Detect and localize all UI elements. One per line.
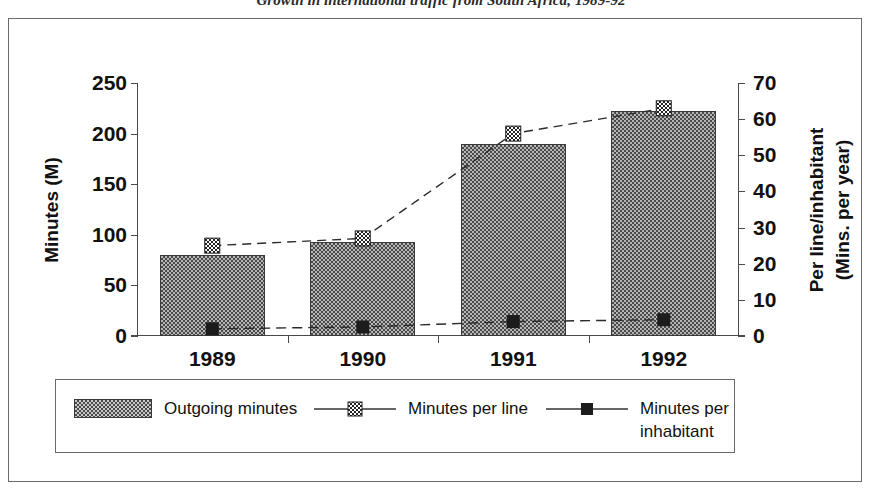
data-point-marker (506, 126, 521, 141)
right-axis-title-line2: (Mins. per year) (832, 139, 854, 279)
right-tick-label: 30 (753, 217, 813, 238)
data-point-marker (355, 231, 370, 246)
left-tick-label: 200 (37, 123, 127, 144)
left-tick-label: 50 (37, 274, 127, 295)
right-tick-mark (738, 191, 745, 192)
data-point-marker (656, 101, 671, 116)
legend-label: Outgoing minutes (164, 398, 297, 421)
data-point-marker (206, 322, 219, 335)
left-tick-label: 100 (37, 224, 127, 245)
right-tick-mark (738, 228, 745, 229)
right-tick-mark (738, 119, 745, 120)
data-point-marker (507, 315, 520, 328)
right-tick-mark (738, 155, 745, 156)
right-tick-label: 60 (753, 108, 813, 129)
legend-item-outgoing-minutes[interactable]: Outgoing minutes (74, 398, 297, 421)
data-point-marker (356, 320, 369, 333)
x-axis-label: 1992 (589, 347, 740, 371)
right-tick-label: 10 (753, 289, 813, 310)
right-tick-mark (738, 264, 745, 265)
right-tick-label: 70 (753, 72, 813, 93)
x-tick-mark (288, 335, 289, 343)
legend-label: Minutes per line (408, 398, 528, 421)
left-tick-label: 150 (37, 173, 127, 194)
legend-item-minutes-per-line[interactable]: Minutes per line (314, 398, 528, 421)
legend-line-checkered-marker-icon (314, 399, 396, 419)
line-series-path (212, 108, 664, 245)
data-point-marker (657, 313, 670, 326)
left-axis-title: Minutes (M) (35, 83, 69, 336)
right-tick-label: 0 (753, 325, 813, 346)
right-tick-label: 50 (753, 144, 813, 165)
legend-line-solid-marker-icon (546, 399, 628, 419)
right-tick-mark (738, 300, 745, 301)
x-axis-label: 1989 (137, 347, 288, 371)
left-tick-label: 0 (37, 325, 127, 346)
legend-label: Minutes per inhabitant (640, 398, 734, 444)
right-tick-label: 20 (753, 253, 813, 274)
x-tick-mark (438, 335, 439, 343)
x-axis-label: 1990 (288, 347, 439, 371)
x-axis-label: 1991 (438, 347, 589, 371)
right-tick-mark (738, 83, 745, 84)
legend-item-minutes-per-inhabitant[interactable]: Minutes per inhabitant (546, 398, 734, 444)
legend-swatch-hatched-icon (74, 399, 152, 418)
chart-title: Growth in international traffic from Sou… (0, 0, 882, 9)
line-series-overlay (137, 83, 739, 336)
x-tick-mark (589, 335, 590, 343)
right-tick-label: 40 (753, 180, 813, 201)
line-series-path (212, 320, 664, 329)
data-point-marker (205, 238, 220, 253)
legend: Outgoing minutes Minutes per line Minute… (55, 379, 735, 453)
right-tick-mark (738, 336, 745, 337)
left-tick-label: 250 (37, 72, 127, 93)
chart-frame: Minutes (M) Per line/inhabitant (Mins. p… (8, 18, 862, 482)
left-tick-mark (131, 336, 138, 337)
plot-area: 050100150200250 010203040506070 19891990… (137, 83, 739, 336)
